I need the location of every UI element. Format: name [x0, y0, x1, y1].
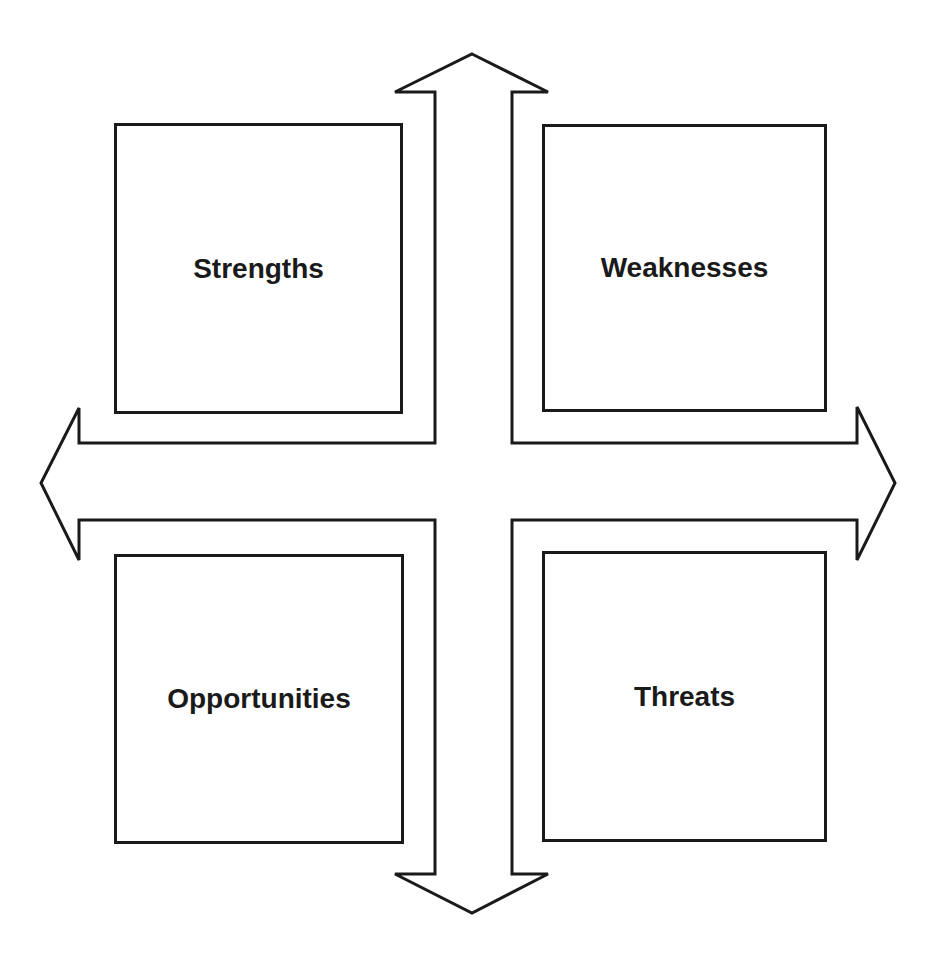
threats-box: Threats [542, 551, 827, 842]
opportunities-label: Opportunities [167, 683, 351, 715]
weaknesses-box: Weaknesses [542, 124, 827, 412]
weaknesses-label: Weaknesses [601, 252, 769, 284]
strengths-label: Strengths [193, 253, 324, 285]
strengths-box: Strengths [114, 123, 403, 414]
opportunities-box: Opportunities [114, 554, 404, 844]
threats-label: Threats [634, 681, 735, 713]
